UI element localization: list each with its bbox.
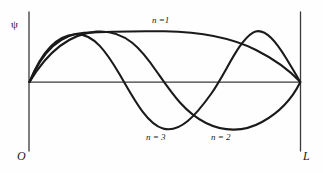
curve-annotation-n2: n = 2 (211, 133, 231, 142)
curve-annotation-n3: n = 3 (146, 133, 166, 142)
curve-annotation-n1: n =1 (152, 16, 169, 25)
x-axis-label-origin: O (17, 150, 26, 162)
x-axis-label-length: L (303, 150, 310, 162)
y-axis-label-psi: ψ (11, 19, 18, 30)
wavefunction-plot-area (0, 0, 323, 173)
figure-background (0, 0, 323, 173)
wavefunction-figure: ψ O L n =1 n = 3 n = 2 (0, 0, 323, 173)
